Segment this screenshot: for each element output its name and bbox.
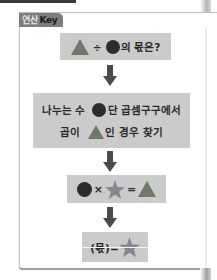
step-2-line-2: 곱이 인 경우 찾기 [60,124,162,139]
circle-icon [77,182,92,197]
quotient-label: (몫)= [90,240,118,255]
tab-label: Key [39,15,57,25]
down-arrow-icon [103,207,117,229]
page-edge-shadow [200,0,211,12]
step-1-box: ÷ 의 몫은? [60,33,171,60]
step-2-line-2-after: 인 경우 찾기 [105,124,162,139]
triangle-icon [71,39,89,55]
star-icon [119,237,140,257]
equals-operator: = [127,183,136,196]
step-3-box: × = [67,175,166,203]
top-border-bar [0,0,76,3]
divide-operator: ÷ [93,41,102,53]
step-2-line-1: 나누는 수 단 곱셈구구에서 [42,102,181,117]
step-2-line-2-before: 곱이 [60,124,80,139]
down-arrow-icon [103,151,117,173]
page-edge-shadow-bottom [200,268,211,280]
section-tab: 연산Key [19,13,63,27]
tab-prefix: 연산 [22,15,37,25]
down-arrow-icon [103,65,117,87]
circle-icon [106,40,120,54]
card-right-edge [205,27,207,270]
times-operator: × [94,183,103,196]
step-2-line-1-before: 나누는 수 [42,102,86,117]
operation-key-panel: 연산Key ÷ 의 몫은? 나누는 수 단 곱셈구구에서 곱이 인 경우 찾기 … [0,0,217,280]
step-4-box: (몫)= [82,232,148,262]
step-2-line-1-after: 단 곱셈구구에서 [108,102,182,117]
step-2-box: 나누는 수 단 곱셈구구에서 곱이 인 경우 찾기 [33,93,190,148]
triangle-icon [138,181,156,197]
circle-icon [92,103,106,117]
step-1-text: 의 몫은? [121,39,161,54]
triangle-icon [88,125,104,139]
star-icon [105,180,125,199]
